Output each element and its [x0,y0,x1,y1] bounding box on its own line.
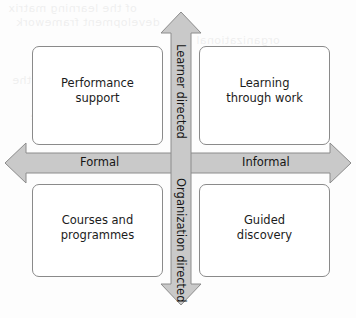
quadrant-label: Learning through work [226,76,303,106]
quadrant-label: Guided discovery [237,213,292,243]
axis-label-learner-directed: Learner directed [174,44,188,139]
quadrant-label: Courses and programmes [61,213,134,243]
quadrant-learning-through-work[interactable]: Learning through work [199,46,330,145]
quadrant-performance-support[interactable]: Performance support [32,46,163,145]
quadrant-guided-discovery[interactable]: Guided discovery [199,184,330,277]
axis-label-organization-directed: Organization directed [174,178,188,302]
diagram-canvas: of the learning matrix development frame… [0,0,356,318]
quadrant-courses-and-programmes[interactable]: Courses and programmes [32,184,163,277]
quadrant-label: Performance support [61,76,134,106]
axis-label-informal: Informal [242,155,290,169]
axis-label-formal: Formal [80,155,119,169]
